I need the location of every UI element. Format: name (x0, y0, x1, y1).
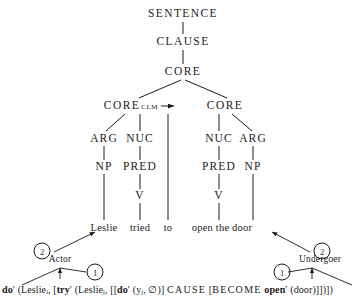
node-core-clm: CORECLM (104, 100, 158, 112)
node-core-clm-label: CORE (104, 99, 140, 111)
formula-token-12: CAUSE (167, 284, 206, 295)
formula-token-4: try (57, 284, 70, 295)
node-nuc-left: NUC (126, 133, 154, 145)
formula-token-9: ′ (y (128, 284, 141, 295)
node-core-clm-subscript: CLM (141, 103, 158, 111)
formula-token-3: , [ (48, 284, 57, 295)
node-pred-left: PRED (123, 161, 157, 173)
edge-core-coreclm (139, 80, 181, 98)
diagram-canvas: SENTENCE CLAUSE CORE CORECLM CORE ARG NU… (0, 0, 364, 306)
formula-token-17: ′ (door)]])]) (285, 284, 333, 295)
arrow-circle2-left-to-leslie (54, 232, 95, 252)
word-to: to (164, 223, 173, 234)
formula-token-16: open (264, 284, 285, 295)
node-core-top: CORE (165, 66, 201, 78)
node-v-left: V (135, 190, 144, 202)
circle-number-2-left: 2 (34, 243, 51, 260)
formula-token-14: BECOME (212, 284, 261, 295)
formula-token-1: ′ (Leslie (13, 284, 46, 295)
edge-coreright-arg (232, 114, 252, 131)
node-np-right: NP (245, 161, 262, 173)
formula-token-0: do (2, 284, 13, 295)
arrow-actor-base-left (22, 268, 60, 285)
tree-branches (104, 22, 253, 220)
node-arg-right: ARG (239, 133, 267, 145)
word-open-the-door: open the door (192, 223, 252, 234)
node-arg-left: ARG (90, 133, 118, 145)
formula-token-7: , [[ (105, 284, 117, 295)
node-np-left: NP (96, 161, 113, 173)
node-clause: CLAUSE (156, 36, 209, 48)
node-nuc-right: NUC (205, 133, 233, 145)
circle-number-1-left: 1 (87, 264, 104, 281)
edge-coreclm-arg (106, 114, 125, 131)
circle-number-2-right: 2 (314, 243, 331, 260)
node-pred-right: PRED (202, 161, 236, 173)
word-tried: tried (130, 223, 150, 234)
arrow-undergoer-base-right (312, 268, 352, 285)
word-leslie: Leslie (91, 223, 118, 234)
edge-core-coreright (185, 80, 227, 98)
circle-number-1-right: 1 (274, 264, 291, 281)
arrow-actor-base-right (60, 268, 86, 272)
formula-token-8: do (117, 284, 128, 295)
arrow-circle2-right-to-open (272, 232, 310, 252)
logical-structure-formula: do′ (Lesliei, [try′ (Lesliej, [[do′ (yj,… (2, 284, 333, 295)
node-sentence: SENTENCE (148, 8, 218, 20)
node-v-right: V (214, 190, 223, 202)
label-actor: Actor (49, 255, 72, 265)
formula-token-5: ′ (Leslie (70, 284, 103, 295)
formula-token-11: , ∅)] (143, 284, 167, 295)
arrow-undergoer-base-left (288, 268, 312, 272)
node-core-right: CORE (207, 100, 243, 112)
